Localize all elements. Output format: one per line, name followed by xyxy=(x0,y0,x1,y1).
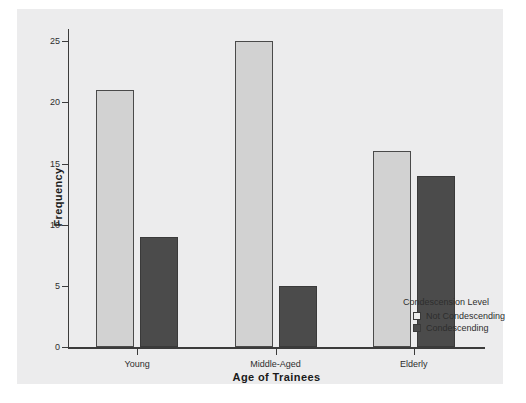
legend-items: Not CondescendingCondescending xyxy=(403,311,523,333)
y-tick-mark xyxy=(62,347,68,348)
x-tick-mark xyxy=(414,349,415,355)
y-tick-mark xyxy=(62,164,68,165)
chart-figure: Frequency 0510152025 YoungMiddle-AgedEld… xyxy=(0,0,526,403)
legend-swatch-dark xyxy=(413,324,421,332)
y-tick-label: 10 xyxy=(50,220,60,229)
y-tick-label: 5 xyxy=(55,281,60,290)
x-axis-title: Age of Trainees xyxy=(68,371,485,383)
bar-young-not-condescending xyxy=(96,90,134,347)
bar-middle-aged-condescending xyxy=(279,286,317,347)
legend-item: Not Condescending xyxy=(413,311,523,321)
y-axis-line xyxy=(68,29,69,348)
legend-item: Condescending xyxy=(413,323,523,333)
chart-panel: Frequency 0510152025 YoungMiddle-AgedEld… xyxy=(17,9,503,384)
x-tick-mark xyxy=(276,349,277,355)
x-axis-line xyxy=(68,347,485,349)
y-tick-label: 20 xyxy=(50,98,60,107)
bar-young-condescending xyxy=(140,237,178,347)
y-tick-label: 0 xyxy=(55,343,60,352)
y-tick-mark xyxy=(62,41,68,42)
x-tick-label: Elderly xyxy=(400,359,428,369)
legend-label: Not Condescending xyxy=(426,311,505,321)
y-axis-title: Frequency xyxy=(52,167,64,226)
y-tick-mark xyxy=(62,102,68,103)
legend-swatch-light xyxy=(413,312,421,320)
bar-middle-aged-not-condescending xyxy=(235,41,273,347)
y-tick-mark xyxy=(62,225,68,226)
legend: Condescension Level Not CondescendingCon… xyxy=(403,297,523,335)
y-tick-label: 25 xyxy=(50,37,60,46)
legend-title: Condescension Level xyxy=(403,297,523,307)
legend-label: Condescending xyxy=(426,323,489,333)
y-tick-label: 15 xyxy=(50,159,60,168)
y-tick-mark xyxy=(62,286,68,287)
x-tick-label: Young xyxy=(125,359,150,369)
x-tick-label: Middle-Aged xyxy=(250,359,301,369)
x-tick-mark xyxy=(137,349,138,355)
